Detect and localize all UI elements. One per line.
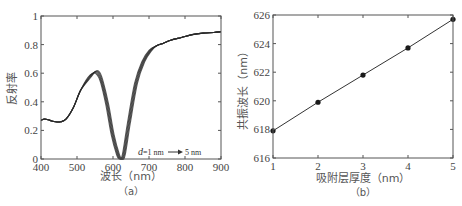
x-axis-label-a: 波长（nm） [100, 170, 162, 183]
panel-b-resonance-chart: 12345 616618620622624626 吸附层厚度（nm） （b） 共… [231, 0, 462, 206]
y-tick-label: 618 [254, 123, 271, 135]
y-tick-label: 620 [254, 95, 271, 107]
x-tick-label: 3 [360, 160, 366, 172]
resonance-plot: 12345 616618620622624626 吸附层厚度（nm） （b） 共… [231, 0, 462, 206]
y-axis-label-a: 反射率 [5, 72, 19, 105]
y-tick-label: 622 [254, 66, 271, 78]
x-tick-label: 500 [69, 161, 86, 173]
x-tick-label: 4 [405, 160, 411, 172]
data-point-marker [315, 100, 320, 105]
arrow-right-icon [178, 150, 183, 155]
reflectance-curves [41, 32, 221, 159]
y-tick-label: 0.8 [24, 39, 38, 51]
x-tick-labels-b: 12345 [270, 160, 456, 172]
y-tick-label: 0 [33, 153, 39, 165]
plot-frame-a [41, 16, 221, 159]
panel-a-reflectance-chart: 400500600700800900 00.20.40.60.81 d=1 nm… [0, 0, 231, 206]
reflectance-curve-d3 [41, 32, 221, 159]
x-tick-label: 5 [450, 160, 456, 172]
y-tick-label: 624 [254, 38, 271, 50]
annotation-end: 5 nm [185, 148, 202, 157]
x-tick-label: 1 [270, 160, 276, 172]
reflectance-curve-d4 [41, 32, 221, 159]
y-tick-label: 0.2 [24, 124, 38, 136]
y-axis-label-b: 共振波长（nm） [236, 46, 250, 130]
axis-ticks-a [41, 16, 221, 159]
y-tick-label: 626 [254, 9, 271, 21]
data-point-marker [405, 45, 410, 50]
resonance-line [270, 17, 455, 134]
annotation-start: =1 nm [143, 148, 165, 157]
x-axis-label-b: 吸附层厚度（nm） [316, 171, 411, 185]
reflectance-curve-d1 [41, 32, 221, 159]
y-tick-label: 1 [33, 10, 39, 22]
reflectance-plot: 400500600700800900 00.20.40.60.81 d=1 nm… [0, 0, 231, 206]
reflectance-curve-d5 [41, 32, 221, 159]
x-tick-label: 900 [213, 161, 230, 173]
caption-a: （a） [118, 186, 144, 197]
y-tick-labels-b: 616618620622624626 [254, 9, 271, 164]
x-tick-label: 2 [315, 160, 321, 172]
data-point-marker [360, 72, 365, 77]
y-tick-label: 616 [254, 152, 271, 164]
svg-text:d=1 nm: d=1 nm [138, 146, 165, 157]
reflectance-curve-d2 [41, 32, 221, 159]
y-tick-label: 0.4 [24, 96, 38, 108]
annotation-d-range: d=1 nm 5 nm [138, 146, 202, 157]
y-tick-labels-a: 00.20.40.60.81 [24, 10, 38, 165]
x-tick-label: 800 [177, 161, 194, 173]
y-tick-label: 0.6 [24, 67, 38, 79]
caption-b: （b） [350, 187, 376, 198]
